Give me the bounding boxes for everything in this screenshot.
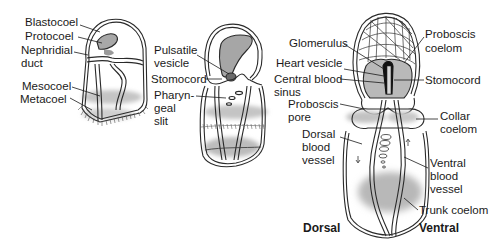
label-stomocord-panel2: Stomocord xyxy=(151,73,207,86)
label-collar-coelom-2: coelom xyxy=(440,123,477,136)
label-proboscis-coelom-2: coelom xyxy=(425,42,462,55)
panel-1-larva xyxy=(70,19,148,126)
label-pulsatile-vesicle-2: vesicle xyxy=(154,57,189,70)
label-dorsal-blood-vessel-1: Dorsal xyxy=(302,128,335,141)
label-proboscis-pore-2: pore xyxy=(288,111,311,124)
label-protocoel: Protocoel xyxy=(25,30,74,43)
label-mesocoel: Mesocoel xyxy=(22,80,71,93)
label-pulsatile-vesicle-1: Pulsatile xyxy=(154,44,197,57)
label-pharyngeal-slit-1: Pharyn- xyxy=(154,89,194,102)
label-nephridial-duct-2: duct xyxy=(21,57,43,70)
label-heart-vesicle: Heart vesicle xyxy=(276,57,342,70)
label-pharyngeal-slit-3: slit xyxy=(154,115,168,128)
label-nephridial-duct-1: Nephridial xyxy=(21,44,73,57)
label-central-blood-sinus-2: sinus xyxy=(274,86,301,99)
diagram-canvas: Blastocoel Protocoel Nephridial duct Mes… xyxy=(0,0,503,245)
label-dorsal-orientation: Dorsal xyxy=(303,222,340,235)
label-ventral-blood-vessel-2: blood xyxy=(430,170,458,183)
panel-2-larva xyxy=(196,24,268,167)
label-central-blood-sinus-1: Central blood xyxy=(274,73,342,86)
label-metacoel: Metacoel xyxy=(20,93,67,106)
label-proboscis-pore-1: Proboscis xyxy=(288,98,339,111)
label-trunk-coelom: Trunk coelom xyxy=(419,204,488,217)
label-ventral-blood-vessel-1: Ventral xyxy=(430,157,466,170)
label-dorsal-blood-vessel-2: blood xyxy=(302,141,330,154)
label-ventral-orientation: Ventral xyxy=(419,222,459,235)
label-pharyngeal-slit-2: geal xyxy=(154,102,176,115)
label-collar-coelom-1: Collar xyxy=(440,110,470,123)
label-proboscis-coelom-1: Proboscis xyxy=(425,28,476,41)
label-dorsal-blood-vessel-3: vessel xyxy=(302,154,335,167)
label-ventral-blood-vessel-3: vessel xyxy=(430,183,463,196)
label-blastocoel: Blastocoel xyxy=(25,16,78,29)
label-glomerulus: Glomerulus xyxy=(289,37,348,50)
label-stomocord-panel3: Stomocord xyxy=(425,74,481,87)
